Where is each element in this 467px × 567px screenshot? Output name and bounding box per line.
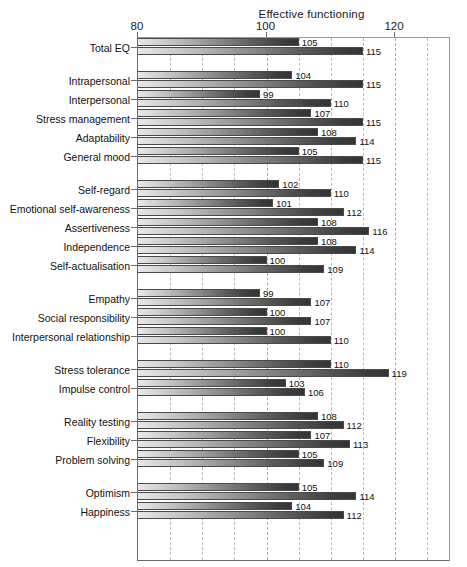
bar-value-label: 109 [327, 459, 343, 468]
bar [138, 237, 318, 245]
bar-value-label: 108 [321, 237, 337, 246]
chart-row: Impulse control103106 [0, 379, 467, 398]
category-label: Reality testing [0, 413, 130, 431]
bar-value-label: 113 [353, 440, 368, 449]
bar [138, 308, 267, 316]
bar [138, 502, 292, 510]
category-label: General mood [0, 148, 130, 166]
bar [138, 265, 324, 273]
bar-value-label: 107 [314, 317, 330, 326]
chart-row: Stress management107115 [0, 109, 467, 128]
bar [138, 218, 318, 226]
bar-value-label: 105 [302, 147, 318, 156]
bar-value-label: 106 [308, 388, 324, 397]
bar [138, 256, 267, 264]
bar [138, 189, 331, 197]
category-label: Self-actualisation [0, 257, 130, 275]
chart-row: Empathy99107 [0, 289, 467, 308]
category-label: Emotional self-awareness [0, 200, 130, 218]
bar-value-label: 110 [334, 336, 349, 345]
bar-value-label: 110 [334, 360, 349, 369]
bar-pair: 110119 [137, 360, 450, 379]
bar [138, 180, 279, 188]
category-label: Assertiveness [0, 219, 130, 237]
bar-value-label: 115 [366, 47, 381, 56]
chart-row: Interpersonal relationship100110 [0, 327, 467, 346]
bar [138, 137, 356, 145]
chart-row: Assertiveness108116 [0, 218, 467, 237]
bar [138, 483, 299, 491]
bar-pair: 105114 [137, 483, 450, 502]
category-label: Stress tolerance [0, 361, 130, 379]
bar [138, 99, 331, 107]
bar [138, 421, 344, 429]
bar-pair: 100109 [137, 256, 450, 275]
bar-pair: 108114 [137, 237, 450, 256]
bar [138, 379, 286, 387]
chart-row: Problem solving105109 [0, 450, 467, 469]
bar [138, 388, 305, 396]
chart-row: Total EQ105115 [0, 38, 467, 57]
bar-pair: 99110 [137, 90, 450, 109]
bar-value-label: 107 [314, 109, 330, 118]
bar [138, 369, 389, 377]
bar-value-label: 109 [327, 265, 343, 274]
category-label: Happiness [0, 503, 130, 521]
bar-value-label: 104 [295, 502, 311, 511]
bar-pair: 107113 [137, 431, 450, 450]
category-label: Adaptability [0, 129, 130, 147]
bar-value-label: 108 [321, 128, 337, 137]
bar-value-label: 116 [372, 227, 387, 236]
bar [138, 360, 331, 368]
bar [138, 90, 260, 98]
bar [138, 289, 260, 297]
category-label: Empathy [0, 290, 130, 308]
x-tick-label: 100 [256, 20, 275, 32]
bar-pair: 107115 [137, 109, 450, 128]
bar-value-label: 115 [366, 80, 381, 89]
bar-pair: 108112 [137, 412, 450, 431]
bar [138, 317, 311, 325]
bar-pair: 108116 [137, 218, 450, 237]
chart-row: Optimism105114 [0, 483, 467, 502]
bar-value-label: 108 [321, 412, 337, 421]
chart-row: Adaptability108114 [0, 128, 467, 147]
bar-value-label: 100 [270, 308, 286, 317]
bar-pair: 101112 [137, 199, 450, 218]
bar-value-label: 99 [263, 289, 274, 298]
chart-title: Effective functioning [0, 8, 467, 20]
bar-value-label: 100 [270, 327, 286, 336]
bar-value-label: 107 [314, 298, 330, 307]
bar-chart: Effective functioning 80100120 Total EQ1… [0, 0, 467, 567]
bar [138, 227, 369, 235]
bar [138, 47, 363, 55]
bar [138, 80, 363, 88]
bar-pair: 105115 [137, 147, 450, 166]
chart-row: Happiness104112 [0, 502, 467, 521]
category-label: Impulse control [0, 380, 130, 398]
category-label: Intrapersonal [0, 72, 130, 90]
bar [138, 412, 318, 420]
bar-value-label: 105 [302, 483, 318, 492]
bar-value-label: 114 [359, 492, 374, 501]
bar [138, 336, 331, 344]
category-label: Interpersonal [0, 91, 130, 109]
chart-row: Flexibility107113 [0, 431, 467, 450]
bar [138, 38, 299, 46]
bar-value-label: 100 [270, 256, 286, 265]
bar [138, 156, 363, 164]
bar [138, 128, 318, 136]
bar-value-label: 103 [289, 379, 305, 388]
chart-row: Self-regard102110 [0, 180, 467, 199]
bar [138, 431, 311, 439]
bar-value-label: 114 [359, 246, 374, 255]
category-label: Interpersonal relationship [0, 328, 130, 346]
bar-value-label: 114 [359, 137, 374, 146]
bar [138, 511, 344, 519]
chart-row: General mood105115 [0, 147, 467, 166]
category-label: Independence [0, 238, 130, 256]
bar-value-label: 112 [347, 208, 362, 217]
bar [138, 71, 292, 79]
bar-value-label: 99 [263, 90, 274, 99]
bar-value-label: 115 [366, 118, 381, 127]
